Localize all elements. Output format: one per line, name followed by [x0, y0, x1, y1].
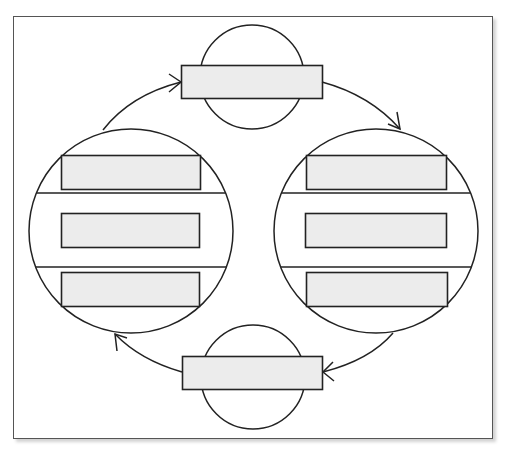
node-bottom — [183, 325, 323, 429]
left-box-3 — [62, 273, 200, 307]
left-box-2 — [62, 214, 200, 248]
arrow-line — [322, 82, 400, 129]
left-box-1 — [62, 156, 201, 190]
edge-bottom-to-left — [115, 334, 182, 372]
node-right — [265, 129, 485, 333]
arrow-line — [115, 334, 182, 372]
node-top — [182, 25, 323, 129]
bottom-box — [183, 357, 323, 390]
cycle-diagram — [0, 0, 509, 455]
node-left — [20, 129, 240, 333]
edge-top-to-right — [322, 82, 400, 129]
diagram-canvas — [0, 0, 509, 455]
right-box-3 — [307, 273, 448, 307]
arrow-line — [103, 82, 181, 130]
edge-right-to-bottom — [323, 333, 393, 381]
right-box-1 — [307, 156, 447, 190]
right-box-2 — [306, 214, 447, 248]
edge-left-to-top — [103, 74, 181, 130]
top-box — [182, 66, 323, 99]
arrow-line — [323, 333, 393, 372]
